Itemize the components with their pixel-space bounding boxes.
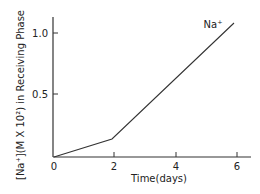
x-tick-label-4: 4 — [173, 161, 179, 172]
x-axis-label: Time(days) — [130, 173, 187, 184]
x-tick-label-6: 6 — [234, 161, 240, 172]
x-tick-label-2: 2 — [111, 161, 117, 172]
y-tick-label-1.0: 1.0 — [32, 28, 48, 39]
y-tick-label-0.5: 0.5 — [32, 89, 48, 100]
series-label-na: Na⁺ — [204, 19, 223, 30]
x-tick-label-0: 0 — [51, 161, 57, 172]
series-na-line — [54, 23, 234, 157]
chart: 1.0 0.5 0 2 4 6 Time(days) [Na⁺](M X 10²… — [0, 0, 260, 194]
y-axis-label: [Na⁺](M X 10²) in Receiving Phase — [15, 10, 26, 180]
